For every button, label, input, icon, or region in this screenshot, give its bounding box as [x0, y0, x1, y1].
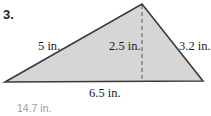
answer-text: 14.7 in.: [17, 103, 51, 114]
right-side-label: 3.2 in.: [179, 40, 211, 53]
base-label: 6.5 in.: [89, 87, 121, 100]
triangle-problem: 3. 5 in. 2.5 in. 3.2 in. 6.5 in. 14.7 in…: [0, 0, 211, 116]
triangle-shape: [5, 4, 203, 82]
height-label: 2.5 in.: [109, 40, 141, 53]
left-side-label: 5 in.: [38, 40, 60, 53]
